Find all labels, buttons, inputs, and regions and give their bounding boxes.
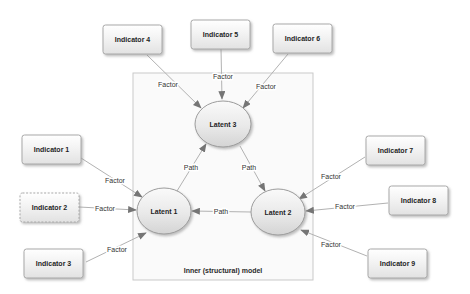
indicator-7-label: Indicator 7	[378, 147, 414, 154]
indicator-9-label: Indicator 9	[380, 260, 416, 267]
factor-label-i3: Factor	[107, 246, 128, 253]
indicator-4-label: Indicator 4	[115, 36, 151, 43]
path-label-l3-l2: Path	[242, 164, 257, 171]
indicator-8-label: Indicator 8	[401, 197, 437, 204]
factor-label-i5: Factor	[213, 73, 234, 80]
indicator-1-node: Indicator 1	[22, 135, 81, 164]
indicator-2-label: Indicator 2	[32, 204, 68, 211]
factor-label-i7: Factor	[321, 173, 342, 180]
latent-2-label: Latent 2	[265, 209, 292, 216]
indicator-7-node: Indicator 7	[366, 136, 425, 165]
indicator-2-node: Indicator 2	[20, 193, 79, 222]
indicator-1-label: Indicator 1	[34, 146, 70, 153]
indicator-8-node: Indicator 8	[389, 186, 448, 215]
indicator-3-node: Indicator 3	[24, 249, 83, 278]
factor-label-i9: Factor	[321, 241, 342, 248]
indicator-5-label: Indicator 5	[203, 31, 239, 38]
indicator-6-label: Indicator 6	[285, 35, 321, 42]
path-label-l1-l3: Path	[184, 164, 199, 171]
factor-label-i1: Factor	[105, 177, 126, 184]
factor-label-i4: Factor	[158, 81, 179, 88]
factor-label-i6: Factor	[256, 83, 277, 90]
indicator-4-node: Indicator 4	[103, 25, 162, 54]
factor-label-i2: Factor	[95, 205, 116, 212]
indicator-6-node: Indicator 6	[273, 24, 332, 53]
indicator-3-label: Indicator 3	[36, 260, 72, 267]
inner-model-label: Inner (structural) model	[184, 267, 263, 275]
latent-3-label: Latent 3	[210, 121, 237, 128]
sem-diagram: Inner (structural) model Factor Factor F…	[0, 0, 470, 294]
latent-1-label: Latent 1	[151, 208, 178, 215]
factor-label-i8: Factor	[335, 203, 356, 210]
latent-3-node: Latent 3	[195, 101, 251, 147]
indicator-5-node: Indicator 5	[191, 20, 250, 49]
path-label-l2-l1: Path	[214, 208, 229, 215]
latent-1-node: Latent 1	[137, 188, 191, 234]
indicator-9-node: Indicator 9	[368, 249, 427, 278]
latent-2-node: Latent 2	[251, 189, 305, 235]
